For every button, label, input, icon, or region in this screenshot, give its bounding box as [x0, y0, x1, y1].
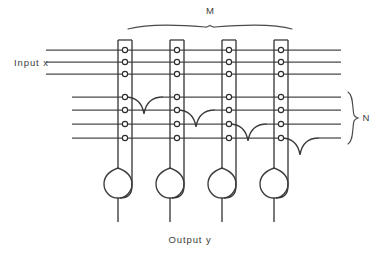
diagram-root: M	[0, 0, 380, 256]
bulb-body-1	[104, 168, 132, 198]
bulb-unit-2	[156, 168, 184, 222]
junction-node	[278, 94, 283, 99]
junction-node	[226, 121, 231, 126]
junction-node	[174, 71, 179, 76]
junction-node	[122, 107, 127, 112]
junction-node	[278, 135, 283, 140]
bulb-body-4	[260, 168, 288, 198]
junction-node	[122, 47, 127, 52]
junction-node	[122, 121, 127, 126]
bulb-body-2	[156, 168, 184, 198]
junction-node	[278, 71, 283, 76]
junction-node	[174, 59, 179, 64]
output-label: Output y	[168, 234, 211, 245]
brace-n	[348, 92, 358, 144]
bulb-body-3	[208, 168, 236, 198]
brace-n-path	[348, 92, 358, 144]
bulb-group	[104, 168, 288, 222]
junction-node	[174, 121, 179, 126]
junction-node	[226, 107, 231, 112]
horizontal-wire-group	[46, 50, 341, 138]
junction-node	[226, 135, 231, 140]
junction-node	[122, 135, 127, 140]
junction-node	[226, 94, 231, 99]
bulb-unit-1	[104, 168, 132, 222]
junction-node	[278, 59, 283, 64]
junction-node	[278, 47, 283, 52]
junction-node	[174, 107, 179, 112]
brace-m-path	[128, 25, 292, 29]
input-label: Input x	[14, 57, 49, 68]
dip-curve-4	[281, 138, 319, 155]
junction-node	[226, 59, 231, 64]
junction-node	[174, 135, 179, 140]
crossbar-network-figure: M	[0, 0, 380, 256]
group-label-m: M	[206, 5, 214, 16]
junction-node	[122, 94, 127, 99]
junction-node	[278, 107, 283, 112]
junction-node	[174, 94, 179, 99]
bulb-unit-4	[260, 168, 288, 222]
junction-node	[122, 71, 127, 76]
junction-node	[122, 59, 127, 64]
brace-m	[128, 25, 292, 29]
junction-node	[174, 47, 179, 52]
bulb-unit-3	[208, 168, 236, 222]
junction-node	[226, 71, 231, 76]
junction-node	[226, 47, 231, 52]
dip-curve-1	[125, 97, 163, 114]
junction-node	[278, 121, 283, 126]
column-group	[118, 40, 288, 168]
group-label-n: N	[363, 112, 370, 123]
